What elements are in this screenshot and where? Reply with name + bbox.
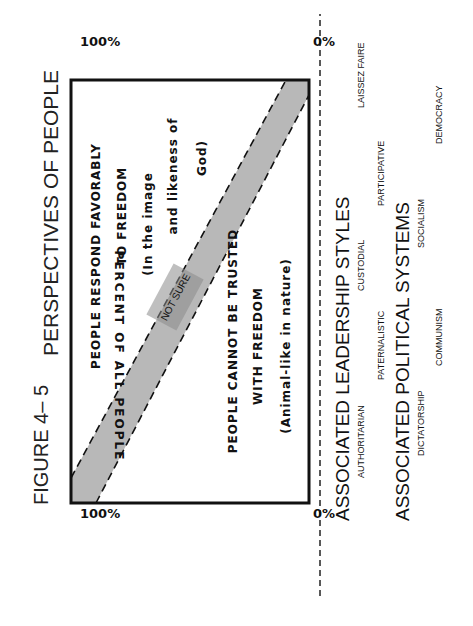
upper-line-1: PEOPLE RESPOND FAVORABLY [89,143,103,369]
figure-canvas: FIGURE 4– 5 PERSPECTIVES OF PEOPLE NOT S… [0,0,473,626]
lower-line-2: WITH FREEDOM [251,287,265,405]
leadership-item: LAISSEZ FAIRE [356,42,366,108]
upper-region-text: PEOPLE RESPOND FAVORABLY TO FREEDOM (In … [89,117,209,369]
leadership-item: PARTICIPATIVE [376,141,386,206]
lower-line-3: (Animal-like in nature) [279,258,293,434]
political-item: SOCIALISM [416,199,426,248]
lower-line-1: PEOPLE CANNOT BE TRUSTED [226,229,240,453]
rotated-figure-page: FIGURE 4– 5 PERSPECTIVES OF PEOPLE NOT S… [0,0,473,626]
figure-title: PERSPECTIVES OF PEOPLE [39,70,62,356]
leadership-item: AUTHORITARIAN [356,405,366,478]
left-top-label: 100% [80,506,120,521]
leadership-items: AUTHORITARIAN PATERNALISTIC CUSTODIAL PA… [356,42,386,478]
political-item: DEMOCRACY [434,85,444,144]
political-item: COMMUNISM [434,309,444,367]
lower-region-text: PEOPLE CANNOT BE TRUSTED WITH FREEDOM (A… [226,229,293,453]
upper-line-5: God) [195,140,209,176]
y-axis-label: PERCENT OF ALL PEOPLE [112,251,126,462]
upper-line-3: (In the image [141,172,155,276]
political-item: DICTATORSHIP [416,390,426,456]
right-bottom-label: 0% [313,34,335,49]
right-top-label: 100% [80,34,120,49]
political-heading: ASSOCIATED POLITICAL SYSTEMS [392,202,413,521]
upper-line-2: TO FREEDOM [115,167,129,266]
leadership-heading: ASSOCIATED LEADERSHIP STYLES [332,196,353,521]
upper-line-4: and likeness of [166,117,180,234]
leadership-item: CUSTODIAL [356,240,366,291]
political-items: DICTATORSHIP COMMUNISM SOCIALISM DEMOCRA… [416,85,444,456]
leadership-item: PATERNALISTIC [376,310,386,380]
figure-label: FIGURE 4– 5 [30,385,52,505]
